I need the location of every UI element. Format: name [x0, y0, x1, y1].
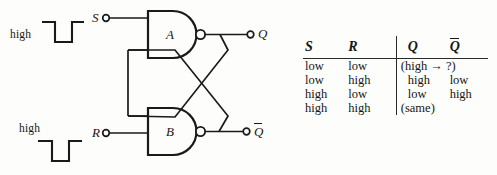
cell-q: high [396, 73, 449, 87]
qbar-terminal-dot[interactable] [243, 128, 250, 135]
cell-r: high [348, 73, 396, 87]
r-input-label: R [92, 125, 100, 141]
s-waveform-trace [42, 22, 84, 42]
r-waveform-trace [38, 141, 82, 161]
truth-table-header-r: R [348, 36, 396, 59]
truth-table: S R Q Q low low (high → ?) low high high… [303, 36, 488, 115]
nand-gate-a-bubble [196, 30, 205, 39]
table-row: low low (high → ?) [303, 59, 488, 74]
truth-table-header-s: S [303, 36, 348, 59]
crosscouple-qbar-to-a [128, 50, 228, 132]
r-terminal-dot[interactable] [103, 130, 110, 137]
nand-gate-b-bubble [196, 127, 205, 136]
truth-table-header-row: S R Q Q [303, 36, 488, 59]
table-row: low high high low [303, 73, 488, 87]
table-row: high low low high [303, 87, 488, 101]
cell-q: low [396, 87, 449, 101]
truth-table-header-q: Q [396, 36, 449, 59]
truth-table-header-qbar: Q [450, 36, 488, 59]
s-waveform-high-label: high [10, 28, 31, 40]
cell-s: high [303, 87, 348, 101]
cell-q: (high → ?) [396, 59, 488, 74]
cell-s: high [303, 101, 348, 115]
qbar-output-label: Q [254, 123, 263, 140]
cell-r: low [348, 87, 396, 101]
cell-qbar: high [450, 87, 488, 101]
q-terminal-dot[interactable] [247, 31, 254, 38]
cell-r: low [348, 59, 396, 74]
cell-s: low [303, 59, 348, 74]
nand-gate-a-label: A [166, 27, 174, 43]
crosscouple-q-to-b [128, 35, 228, 118]
table-row: high high (same) [303, 101, 488, 115]
figure-canvas: high high S R Q Q A B S R Q Q low low (h… [0, 0, 497, 175]
qbar-output-label-text: Q [254, 123, 263, 140]
circuit-diagram [0, 0, 300, 175]
cell-q: (same) [396, 101, 488, 115]
s-input-label: S [92, 10, 99, 26]
s-terminal-dot[interactable] [103, 15, 110, 22]
q-output-label: Q [258, 26, 267, 42]
cell-s: low [303, 73, 348, 87]
nand-gate-b-label: B [166, 124, 174, 140]
cell-r: high [348, 101, 396, 115]
cell-qbar: low [450, 73, 488, 87]
truth-table-header-qbar-text: Q [450, 38, 460, 55]
r-waveform-high-label: high [19, 122, 40, 134]
